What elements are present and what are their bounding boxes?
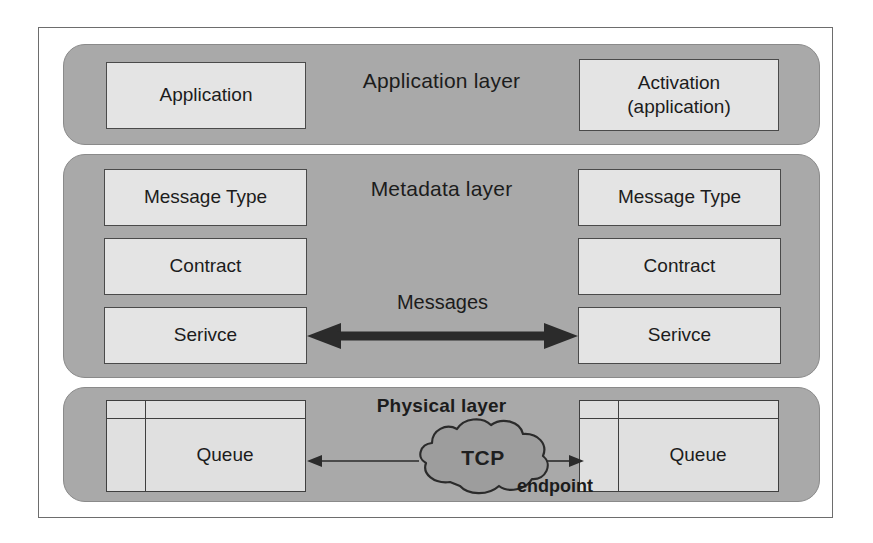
diagram-frame: Application layer Application Activation… xyxy=(38,27,833,518)
message-type-left-box: Message Type xyxy=(104,169,307,226)
contract-right-box: Contract xyxy=(578,238,781,295)
service-left-box: Serivce xyxy=(104,307,307,364)
activation-box-label: Activation (application) xyxy=(627,71,731,120)
messages-double-arrow-icon xyxy=(307,323,578,349)
contract-right-label: Contract xyxy=(644,254,716,278)
service-left-label: Serivce xyxy=(174,323,237,347)
metadata-layer-title: Metadata layer xyxy=(371,177,513,201)
contract-left-label: Contract xyxy=(170,254,242,278)
application-box: Application xyxy=(106,62,306,129)
tcp-label: TCP xyxy=(412,446,554,470)
application-layer-panel: Application layer Application Activation… xyxy=(63,44,820,145)
message-type-right-label: Message Type xyxy=(618,185,741,209)
physical-layer-title: Physical layer xyxy=(377,395,507,417)
queue-left-label: Queue xyxy=(145,418,305,491)
contract-left-box: Contract xyxy=(104,238,307,295)
application-box-label: Application xyxy=(160,83,253,107)
arrow-left-icon xyxy=(307,454,419,468)
metadata-layer-panel: Metadata layer Message Type Contract Ser… xyxy=(63,154,820,378)
application-layer-title: Application layer xyxy=(363,69,521,93)
queue-right-label: Queue xyxy=(618,418,778,491)
endpoint-label: endpoint xyxy=(517,476,593,497)
service-right-label: Serivce xyxy=(648,323,711,347)
queue-right-box: Queue xyxy=(579,400,779,492)
queue-left-box: Queue xyxy=(106,400,306,492)
message-type-right-box: Message Type xyxy=(578,169,781,226)
tcp-to-left-queue-arrow xyxy=(307,454,419,468)
service-right-box: Serivce xyxy=(578,307,781,364)
physical-layer-panel: Physical layer Queue Queue xyxy=(63,387,820,502)
activation-box: Activation (application) xyxy=(579,59,779,131)
messages-connector: Messages xyxy=(307,323,578,349)
message-type-left-label: Message Type xyxy=(144,185,267,209)
activation-box-label-line1: Activation xyxy=(638,72,720,93)
activation-box-label-line2: (application) xyxy=(627,96,731,117)
messages-connector-label: Messages xyxy=(397,291,488,314)
